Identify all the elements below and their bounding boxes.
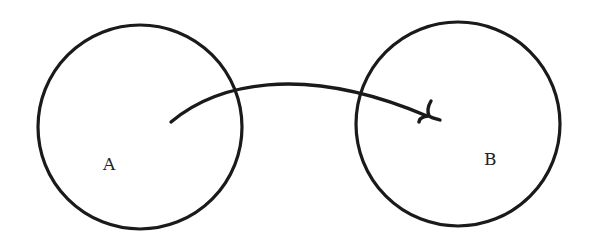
- set-b-label: B: [484, 151, 497, 168]
- set-a-label: A: [103, 156, 115, 173]
- diagram-canvas: A B: [0, 0, 593, 244]
- set-b-circle: [356, 22, 560, 226]
- set-a-circle: [38, 25, 242, 229]
- mapping-arrow: [171, 84, 427, 122]
- arrowhead-icon: [419, 101, 440, 122]
- diagram-svg: [0, 0, 593, 244]
